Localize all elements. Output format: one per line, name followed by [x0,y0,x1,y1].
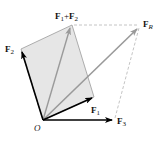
label-f2: F2 [5,44,15,56]
dashed-line-f3-to-resultant [115,28,139,118]
label-f3: F3 [117,116,127,128]
origin-label: O [34,123,41,133]
vector-addition-diagram: O F2 F1+F2 FR F1 F3 [0,0,161,148]
label-f1-plus-f2: F1+F2 [55,11,79,23]
label-f1: F1 [91,105,101,117]
label-fr: FR [143,19,154,31]
